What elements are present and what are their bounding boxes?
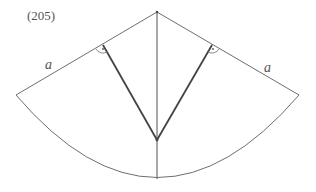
left-right-angle-dot — [102, 48, 104, 50]
inner-vertex-point — [156, 139, 159, 142]
left-perpendicular — [103, 45, 157, 140]
left-side-label: a — [45, 58, 52, 72]
figure-number: (205) — [27, 9, 55, 22]
left-radius — [16, 12, 157, 95]
apex-point — [156, 11, 158, 13]
right-right-angle-dot — [212, 48, 214, 50]
right-side-label: a — [264, 61, 271, 75]
right-radius — [157, 12, 299, 95]
sector-diagram — [0, 0, 316, 192]
diagram-canvas: (205) a a — [0, 0, 316, 192]
right-perpendicular — [157, 45, 212, 140]
